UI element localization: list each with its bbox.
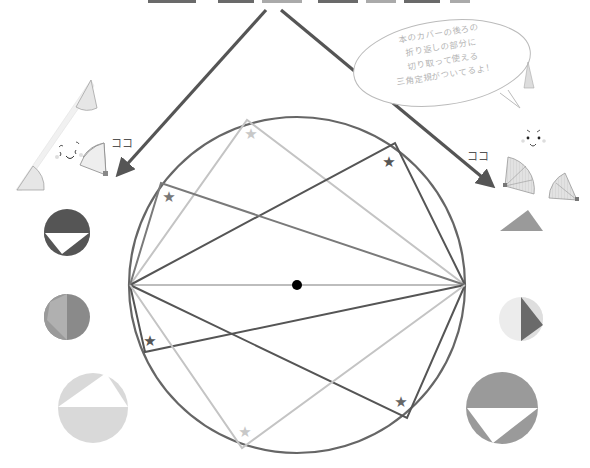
- smiling-face-icon: [55, 142, 83, 159]
- left-thumbnail-dark-half: [44, 209, 90, 256]
- hatched-sector-icon-2: [549, 173, 577, 200]
- inscribed-angle-lower-left-dark: [130, 285, 465, 352]
- star-icon-upper-left: ★: [162, 188, 175, 206]
- right-thumbnail-light-split: [499, 297, 543, 341]
- star-icon-top: ★: [244, 125, 257, 143]
- inscribed-angle-upper-left-mid: [130, 183, 465, 285]
- left-thumbnail-mid-split: [44, 294, 90, 340]
- center-point: [292, 280, 302, 290]
- inscribed-angle-top-light: [130, 120, 465, 285]
- hatched-sector-icon: [505, 157, 534, 194]
- left-thumbnail-light-half: [58, 373, 128, 443]
- inscribed-angle-lower-right-dark: [130, 285, 465, 418]
- cropped-title-remnant: [148, 0, 470, 3]
- star-icon-upper-right: ★: [382, 153, 395, 171]
- star-icon-lower-right: ★: [394, 393, 407, 411]
- angry-face-icon: [521, 130, 546, 146]
- star-icon-lower-left: ★: [143, 332, 156, 350]
- right-thumbnail-triangle: [500, 210, 543, 231]
- right-protractor-character: [503, 130, 579, 201]
- left-triangle-ruler-character: [16, 80, 108, 190]
- left-here-label: ココ: [111, 137, 133, 150]
- star-icon-bottom: ★: [238, 423, 251, 441]
- right-here-label: ココ: [467, 150, 489, 163]
- left-arrow: [122, 10, 266, 170]
- right-thumbnail-mid-half: [466, 372, 538, 444]
